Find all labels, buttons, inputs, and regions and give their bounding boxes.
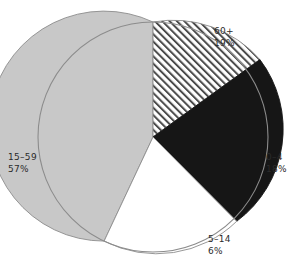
- pie-label-15-59: 15–59 57%: [8, 152, 37, 175]
- pie-label-15-59-percent: 57%: [8, 164, 37, 176]
- pie-slices: [0, 11, 283, 254]
- pie-label-60-plus-percent: 19%: [214, 38, 235, 50]
- pie-chart-canvas: [0, 0, 296, 272]
- pie-label-15-59-name: 15–59: [8, 152, 37, 164]
- pie-chart: 60+ 19% 0–4 18% 5–14 6% 15–59 57%: [0, 0, 296, 272]
- pie-label-0-4-percent: 18%: [266, 164, 287, 176]
- pie-label-60-plus: 60+ 19%: [214, 26, 235, 49]
- pie-label-5-14: 5–14 6%: [208, 234, 231, 257]
- pie-label-0-4: 0–4 18%: [266, 152, 287, 175]
- pie-label-0-4-name: 0–4: [266, 152, 287, 164]
- pie-label-5-14-name: 5–14: [208, 234, 231, 246]
- pie-label-60-plus-name: 60+: [214, 26, 235, 38]
- pie-label-5-14-percent: 6%: [208, 246, 231, 258]
